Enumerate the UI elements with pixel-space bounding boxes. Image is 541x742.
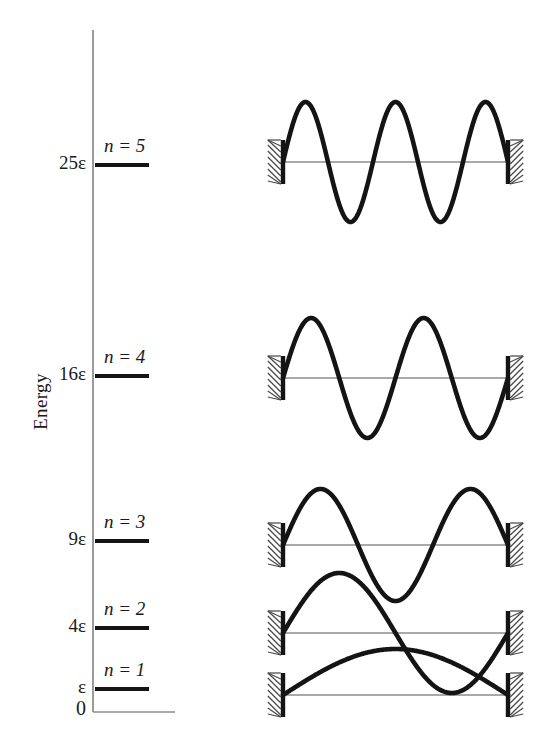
wall-hatch: [268, 622, 281, 635]
wall-hatch: [268, 140, 281, 152]
wavefunction-curve: [283, 649, 508, 695]
energy-value-label: 9ε: [20, 528, 86, 550]
wall-hatch: [268, 356, 281, 362]
wall-hatch: [268, 673, 281, 685]
energy-value-label: 25ε: [20, 152, 86, 174]
quantum-number-label: n = 1: [104, 659, 145, 681]
wall-hatch: [510, 673, 523, 679]
wall-hatch: [268, 361, 281, 374]
wall-hatch: [510, 145, 523, 158]
wall-hatch: [268, 540, 281, 553]
wall-hatch: [510, 634, 523, 647]
wall-hatch: [510, 622, 523, 635]
wall-hatch: [510, 696, 523, 709]
wall-hatch: [510, 678, 523, 691]
energy-axis-title: Energy: [30, 373, 52, 430]
wall-hatch: [268, 611, 281, 623]
wall-hatch: [268, 373, 281, 386]
energy-level-diagram: εn = 14εn = 29εn = 316εn = 425εn = 50 En…: [0, 0, 541, 742]
wall-hatch: [268, 616, 281, 629]
wall-hatch: [268, 678, 281, 691]
wall-hatch: [510, 534, 523, 547]
wall-hatch: [268, 534, 281, 547]
quantum-number-label: n = 3: [104, 511, 145, 533]
wall-hatch: [268, 379, 281, 392]
wall-hatch: [510, 361, 523, 374]
wall-hatch: [510, 151, 523, 164]
wall-hatch: [268, 356, 281, 368]
wall-hatch: [510, 611, 523, 623]
wall-hatch: [268, 611, 281, 617]
wall-hatch: [510, 684, 523, 697]
wall-hatch: [510, 367, 523, 380]
wall-hatch: [510, 528, 523, 541]
wall-hatch: [268, 151, 281, 164]
wall-hatch: [510, 373, 523, 386]
wall-hatch: [268, 523, 281, 535]
wall-hatch: [510, 523, 523, 529]
wall-hatch: [510, 356, 523, 368]
wall-hatch: [510, 379, 523, 392]
wall-hatch: [268, 523, 281, 529]
energy-value-label: 4ε: [20, 615, 86, 637]
wall-hatch: [510, 163, 523, 176]
wall-hatch: [268, 145, 281, 158]
wall-hatch: [510, 611, 523, 617]
wall-hatch: [510, 673, 523, 685]
wall-hatch: [268, 634, 281, 647]
wall-hatch: [268, 528, 281, 541]
wall-hatch: [510, 546, 523, 559]
wall-hatch: [268, 367, 281, 380]
wall-hatch: [268, 163, 281, 176]
wall-hatch: [510, 616, 523, 629]
wall-hatch: [268, 546, 281, 559]
wall-hatch: [510, 628, 523, 641]
wall-hatch: [510, 356, 523, 362]
quantum-number-label: n = 2: [104, 598, 145, 620]
quantum-number-label: n = 4: [104, 346, 145, 368]
wall-hatch: [268, 673, 281, 679]
wall-hatch: [268, 157, 281, 170]
wall-hatch: [268, 690, 281, 703]
zero-label: 0: [20, 697, 86, 720]
wall-hatch: [268, 684, 281, 697]
wall-hatch: [510, 157, 523, 170]
wall-hatch: [510, 523, 523, 535]
wall-hatch: [510, 690, 523, 703]
wall-hatch: [268, 140, 281, 146]
quantum-number-label: n = 5: [104, 135, 145, 157]
wall-hatch: [510, 140, 523, 152]
wall-hatch: [510, 540, 523, 553]
wall-hatch: [268, 696, 281, 709]
wall-hatch: [268, 628, 281, 641]
wall-hatch: [510, 140, 523, 146]
energy-value-label: ε: [20, 676, 86, 698]
